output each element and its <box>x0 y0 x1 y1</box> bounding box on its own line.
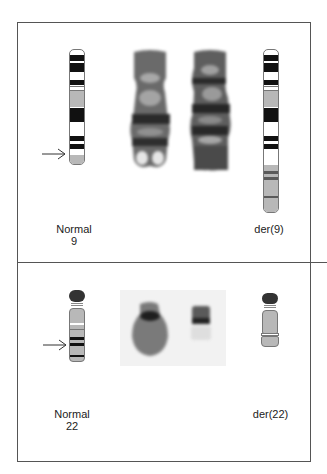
label-der-9: der(9) <box>244 223 294 235</box>
ideogram-der-9 <box>263 49 279 213</box>
chromosome-photo-normal-22 <box>130 300 170 358</box>
ideogram-normal-22 <box>68 290 86 362</box>
chromosome-photo-der-22 <box>189 304 213 344</box>
chromosome-photo-normal-9 <box>128 48 174 172</box>
chromosome-photo-der-9 <box>188 48 234 174</box>
label-normal-9: Normal 9 <box>48 223 100 247</box>
arrow-right-icon <box>41 148 67 160</box>
arrow-right-icon <box>42 339 68 351</box>
ideogram-normal-9 <box>69 49 85 165</box>
panel-divider <box>17 262 327 263</box>
ideogram-der-22 <box>261 293 279 349</box>
label-normal-22: Normal 22 <box>46 408 98 432</box>
label-der-22: der(22) <box>243 408 298 420</box>
